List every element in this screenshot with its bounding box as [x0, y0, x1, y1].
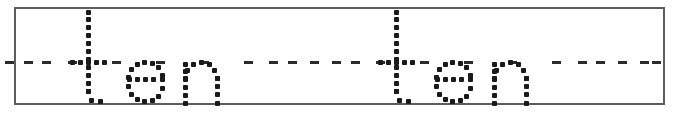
trace-dot [394, 41, 399, 46]
trace-dot [183, 62, 188, 67]
trace-dot [183, 76, 188, 81]
trace-dot [127, 77, 132, 82]
trace-dot [524, 76, 529, 81]
trace-dot [394, 81, 399, 86]
trace-dot [394, 89, 399, 94]
trace-dot [386, 60, 391, 65]
trace-dot [86, 17, 91, 22]
guide-dash [42, 61, 51, 64]
worksheet-accessible-label: Handwriting practice row: trace the dott… [0, 0, 1, 1]
trace-dot [135, 62, 140, 67]
trace-dot [102, 60, 107, 65]
trace-dot [464, 65, 469, 70]
trace-dot [160, 86, 165, 91]
guide-dash [269, 61, 278, 64]
trace-dot [129, 92, 134, 97]
trace-dot [450, 60, 455, 65]
handwriting-worksheet: Handwriting practice row: trace the dott… [0, 0, 679, 118]
trace-dot [126, 84, 131, 89]
trace-dot [143, 77, 148, 82]
trace-dot [402, 60, 407, 65]
trace-dot [215, 76, 220, 81]
guide-dash [351, 61, 360, 64]
trace-dot [151, 77, 156, 82]
trace-dot [435, 77, 440, 82]
trace-dot [492, 93, 497, 98]
trace-dot [86, 41, 91, 46]
trace-dot [89, 98, 94, 103]
trace-dot [129, 67, 134, 72]
trace-dot [142, 60, 147, 65]
guide-dash [578, 61, 587, 64]
trace-dot [524, 84, 529, 89]
guide-dash [652, 61, 661, 64]
trace-dot [394, 73, 399, 78]
trace-dot [378, 60, 383, 65]
trace-dot [524, 92, 529, 97]
trace-dot [191, 62, 196, 67]
trace-dot [458, 61, 463, 66]
trace-dot [215, 92, 220, 97]
trace-dot [86, 33, 91, 38]
trace-dot [86, 10, 91, 15]
trace-dot [142, 99, 147, 104]
trace-dot [156, 65, 161, 70]
trace-dot [215, 101, 220, 106]
trace-dot [450, 99, 455, 104]
trace-dot [492, 76, 497, 81]
trace-dot [183, 85, 188, 90]
practice-frame [14, 7, 665, 105]
trace-dot [183, 101, 188, 106]
trace-dot [215, 84, 220, 89]
trace-dot [183, 93, 188, 98]
trace-dot [78, 60, 83, 65]
guide-dash [618, 61, 627, 64]
trace-dot [394, 33, 399, 38]
trace-dot [521, 68, 526, 73]
trace-dot [458, 98, 463, 103]
trace-dot [508, 60, 513, 65]
trace-dot [434, 84, 439, 89]
trace-dot [492, 62, 497, 67]
trace-dot [443, 77, 448, 82]
trace-dot [443, 62, 448, 67]
trace-dot [492, 101, 497, 106]
trace-dot [468, 86, 473, 91]
trace-dot [524, 101, 529, 106]
trace-dot [468, 77, 473, 82]
trace-dot [156, 94, 161, 99]
trace-dot [94, 60, 99, 65]
trace-dot [86, 89, 91, 94]
trace-dot [406, 99, 411, 104]
trace-dot [516, 62, 521, 67]
trace-dot [86, 60, 91, 65]
guide-dash [310, 61, 319, 64]
trace-dot [394, 17, 399, 22]
trace-dot [437, 92, 442, 97]
trace-dot [212, 68, 217, 73]
trace-dot [98, 99, 103, 104]
trace-dot [135, 97, 140, 102]
trace-dot [135, 77, 140, 82]
trace-dot [150, 98, 155, 103]
trace-dot [443, 97, 448, 102]
trace-dot [459, 77, 464, 82]
trace-dot [86, 81, 91, 86]
trace-dot [199, 60, 204, 65]
trace-dot [410, 60, 415, 65]
trace-dot [500, 62, 505, 67]
trace-dot [185, 68, 190, 73]
trace-dot [494, 68, 499, 73]
trace-dot [70, 60, 75, 65]
trace-dot [394, 10, 399, 15]
trace-dot [86, 49, 91, 54]
trace-dot [451, 77, 456, 82]
trace-dot [394, 60, 399, 65]
trace-dot [86, 65, 91, 70]
trace-dot [86, 73, 91, 78]
trace-dot [207, 62, 212, 67]
trace-dot [160, 77, 165, 82]
trace-dot [394, 25, 399, 30]
trace-dot [492, 85, 497, 90]
trace-dot [437, 67, 442, 72]
